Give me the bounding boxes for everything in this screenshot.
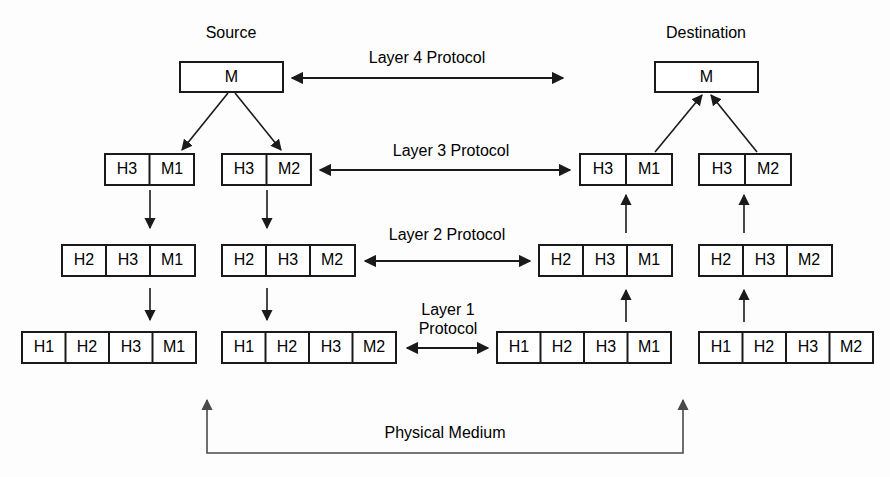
- source-layer1-pdu-b: H1 H2 H3 M2: [222, 332, 396, 363]
- pdu-cell: M1: [638, 160, 660, 177]
- pdu-cell: H3: [798, 338, 819, 355]
- pdu-cell: H2: [552, 338, 573, 355]
- layer2-protocol-label: Layer 2 Protocol: [389, 226, 506, 243]
- destination-layer1-pdu-b: H1 H2 H3 M2: [699, 332, 873, 363]
- pdu-cell: M2: [321, 251, 343, 268]
- pdu-cell: M1: [638, 338, 660, 355]
- destination-layer3-pdu-b: H3 M2: [699, 154, 791, 185]
- source-layer3-pdu-b: H3 M2: [222, 154, 311, 185]
- pdu-cell: H3: [278, 251, 299, 268]
- pdu-cell: H3: [121, 338, 142, 355]
- pdu-cell: M2: [798, 251, 820, 268]
- source-label: Source: [206, 24, 257, 41]
- pdu-cell: H3: [595, 251, 616, 268]
- pdu-cell: M1: [638, 251, 660, 268]
- pdu-cell: H3: [712, 160, 733, 177]
- pdu-cell: M2: [278, 160, 300, 177]
- destination-layer2-pdu-b: H2 H3 M2: [699, 245, 832, 276]
- destination-label: Destination: [666, 24, 746, 41]
- destination-layer2-pdu-a: H2 H3 M1: [539, 245, 672, 276]
- destination-layer3-to-layer4-arrows: [655, 95, 757, 152]
- source-layer2-to-layer1-arrows: [150, 288, 267, 320]
- protocol-layering-diagram: Source Destination M M Layer 4 Protocol: [0, 0, 890, 477]
- pdu-cell: H2: [551, 251, 572, 268]
- pdu-cell: H1: [234, 338, 255, 355]
- source-layer2-pdu-a: H2 H3 M1: [62, 245, 195, 276]
- pdu-cell: H3: [593, 160, 614, 177]
- pdu-cell: H2: [754, 338, 775, 355]
- diagram-canvas: Source Destination M M Layer 4 Protocol: [0, 0, 890, 477]
- pdu-cell: M1: [161, 251, 183, 268]
- destination-layer3-pdu-a: H3 M1: [580, 154, 672, 185]
- pdu-cell: H2: [74, 251, 95, 268]
- source-layer4-pdu: M: [180, 62, 283, 92]
- layer4-protocol-label: Layer 4 Protocol: [369, 49, 486, 66]
- pdu-cell: M1: [163, 338, 185, 355]
- pdu-cell: H3: [321, 338, 342, 355]
- destination-layer4-pdu: M: [655, 62, 758, 92]
- destination-layer2-to-layer3-arrows: [626, 195, 744, 233]
- layer1-protocol-label-line2: Protocol: [419, 320, 478, 337]
- pdu-cell: M2: [757, 160, 779, 177]
- layer3-protocol-label: Layer 3 Protocol: [393, 142, 510, 159]
- pdu-cell: H2: [277, 338, 298, 355]
- pdu-cell: H1: [711, 338, 732, 355]
- destination-layer1-to-layer2-arrows: [626, 290, 744, 322]
- pdu-cell: M2: [840, 338, 862, 355]
- pdu-cell: M: [700, 68, 713, 85]
- pdu-cell: M2: [363, 338, 385, 355]
- pdu-cell: H3: [118, 251, 139, 268]
- pdu-cell: H3: [117, 160, 138, 177]
- source-layer3-to-layer2-arrows: [150, 190, 267, 228]
- source-layer3-pdu-a: H3 M1: [105, 154, 194, 185]
- pdu-cell: H2: [234, 251, 255, 268]
- destination-layer1-pdu-a: H1 H2 H3 M1: [497, 332, 671, 363]
- pdu-cell: H3: [234, 160, 255, 177]
- pdu-cell: H1: [509, 338, 530, 355]
- source-layer4-to-layer3-arrows: [182, 93, 281, 150]
- pdu-cell: H3: [596, 338, 617, 355]
- source-layer1-pdu-a: H1 H2 H3 M1: [22, 332, 196, 363]
- pdu-cell: M1: [161, 160, 183, 177]
- layer1-protocol-label-line1: Layer 1: [421, 301, 474, 318]
- pdu-cell: H2: [711, 251, 732, 268]
- pdu-cell: M: [225, 68, 238, 85]
- pdu-cell: H2: [77, 338, 98, 355]
- physical-medium-label: Physical Medium: [385, 424, 506, 441]
- source-layer2-pdu-b: H2 H3 M2: [222, 245, 355, 276]
- pdu-cell: H1: [34, 338, 55, 355]
- pdu-cell: H3: [755, 251, 776, 268]
